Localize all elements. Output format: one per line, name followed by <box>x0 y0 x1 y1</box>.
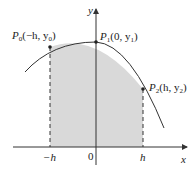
parabola-area-diagram: y x 0 −h h P0(−h, y0) P1(0, y1) P2(h, y2… <box>0 0 196 170</box>
tick-neg-h: −h <box>43 151 56 163</box>
point-p0 <box>48 45 52 49</box>
x-axis-label: x <box>180 153 186 165</box>
origin-label: 0 <box>88 150 94 162</box>
y-axis-label: y <box>87 4 93 16</box>
point-label-p1: P1(0, y1) <box>99 30 138 44</box>
point-p1 <box>94 40 98 44</box>
point-label-p2: P2(h, y2) <box>148 81 187 95</box>
tick-pos-h: h <box>140 151 146 163</box>
point-p2 <box>141 87 145 91</box>
point-label-p0: P0(−h, y0) <box>11 29 56 43</box>
